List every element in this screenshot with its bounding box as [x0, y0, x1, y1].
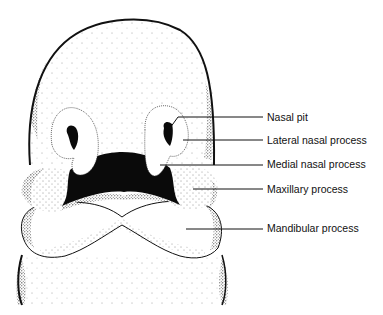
label-lateral-nasal-process: Lateral nasal process — [267, 134, 367, 146]
label-maxillary-process: Maxillary process — [267, 183, 348, 195]
neck-region — [16, 255, 228, 305]
label-mandibular-process: Mandibular process — [267, 222, 359, 234]
label-medial-nasal-process: Medial nasal process — [267, 158, 366, 170]
label-nasal-pit: Nasal pit — [267, 111, 308, 123]
